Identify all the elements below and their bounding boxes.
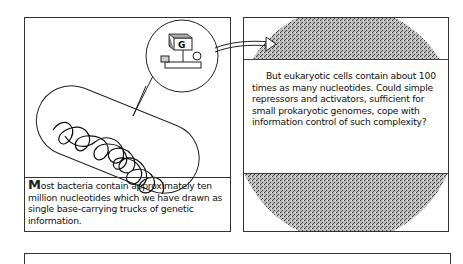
right-comic-panel: But eukaryotic cells contain about 100 t… — [243, 17, 449, 232]
left-caption-text: ost bacteria contain approximately ten m… — [28, 180, 222, 226]
next-panel-edge — [24, 253, 451, 264]
left-comic-panel: G Most bacteria contain approximately te… — [24, 17, 231, 232]
left-caption: Most bacteria contain approximately ten … — [25, 177, 230, 232]
dropcap-letter: M — [28, 177, 41, 192]
right-caption-text: But eukaryotic cells contain about 100 t… — [252, 70, 440, 128]
right-caption: But eukaryotic cells contain about 100 t… — [244, 59, 448, 174]
truck-g-label: G — [178, 40, 185, 50]
